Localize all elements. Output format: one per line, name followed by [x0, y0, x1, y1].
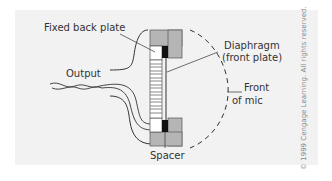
copyright-notice: © 1999 Cengage Learning. All rights rese…: [300, 6, 308, 170]
output-wire-2: [52, 87, 152, 130]
bottom-housing-block: [150, 132, 182, 146]
housing-curve-upper: [110, 30, 148, 70]
spacer-top: [162, 46, 168, 58]
label-front-1: Front: [244, 82, 269, 93]
output-wire-1: [50, 83, 152, 124]
label-fixed-back-plate: Fixed back plate: [44, 22, 125, 33]
top-housing-side: [168, 30, 182, 58]
back-plate-holes: [150, 60, 162, 118]
housing-curve-lower-outer: [110, 96, 152, 144]
label-diaphragm-2: (front plate): [222, 52, 282, 63]
label-front-2: of mic: [232, 95, 263, 106]
back-plate-bottom: [150, 118, 162, 132]
label-output: Output: [66, 68, 101, 79]
label-spacer: Spacer: [150, 150, 185, 161]
front-of-mic-outline: [190, 30, 228, 148]
label-diaphragm-1: Diaphragm: [224, 40, 280, 51]
back-plate-top: [150, 46, 162, 60]
spacer-bottom: [162, 120, 168, 132]
